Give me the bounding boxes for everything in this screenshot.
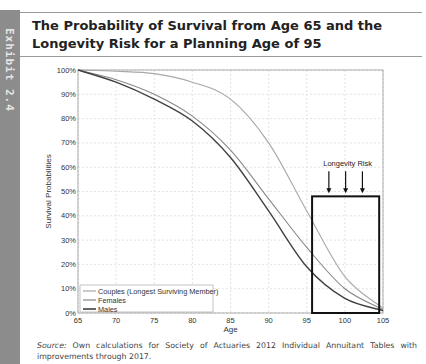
y-tick-label: 40% [61, 211, 76, 220]
y-tick-label: 70% [61, 138, 76, 147]
legend-entry: Males [98, 305, 118, 314]
y-tick-label: 60% [61, 163, 76, 172]
series-line-females [78, 70, 383, 309]
x-tick-label: 95 [303, 316, 311, 325]
x-tick-label: 85 [226, 316, 234, 325]
source-prefix: Source: [37, 341, 67, 350]
arrow-head-icon [360, 188, 365, 193]
x-tick-label: 75 [150, 316, 158, 325]
legend-entry: Females [98, 296, 126, 305]
x-tick-label: 100 [339, 316, 352, 325]
x-tick-label: 105 [377, 316, 390, 325]
y-tick-label: 0% [65, 309, 76, 318]
arrow-head-icon [343, 188, 348, 193]
y-axis-label: Survival Probabilities [44, 154, 53, 228]
survival-chart: 657075808590951001050%10%20%30%40%50%60%… [0, 0, 426, 364]
source-note: Source: Own calculations for Society of … [37, 340, 417, 362]
longevity-risk-label: Longevity Risk [323, 159, 372, 168]
longevity-risk-box [312, 196, 379, 313]
legend: Couples (Longest Surviving Member)Female… [80, 285, 218, 314]
x-axis-label: Age [223, 325, 238, 334]
x-tick-label: 80 [188, 316, 196, 325]
y-tick-label: 50% [61, 187, 76, 196]
x-tick-label: 70 [112, 316, 120, 325]
legend-entry: Couples (Longest Surviving Member) [98, 287, 218, 296]
y-tick-label: 30% [61, 236, 76, 245]
y-tick-label: 20% [61, 260, 76, 269]
arrow-head-icon [326, 188, 331, 193]
y-tick-label: 80% [61, 114, 76, 123]
y-tick-label: 10% [61, 284, 76, 293]
y-tick-label: 100% [57, 66, 77, 75]
grid [78, 70, 383, 313]
series-line-couples [78, 70, 383, 308]
source-text: Own calculations for Society of Actuarie… [37, 341, 417, 361]
y-tick-label: 90% [61, 90, 76, 99]
x-tick-label: 90 [264, 316, 272, 325]
